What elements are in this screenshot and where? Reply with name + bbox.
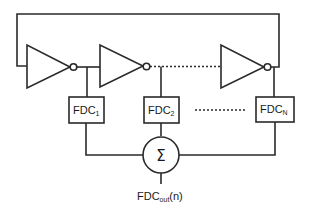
sum-wire-n: [179, 122, 275, 155]
inverter-n: [221, 45, 271, 88]
inverter-bubble-icon: [264, 64, 271, 71]
inverter-1: [27, 45, 77, 88]
sum-wire-1: [86, 123, 143, 155]
fdc-block-n: FDCN: [256, 97, 294, 122]
inverter-bubble-icon: [70, 64, 77, 71]
fdc-block-2: FDC2: [144, 97, 179, 123]
sigma-icon: Σ: [156, 147, 165, 165]
inverter-bubble-icon: [143, 63, 150, 70]
output-label: FDCout(n): [137, 190, 183, 203]
inverter-2: [100, 45, 150, 87]
fdc-block-1: FDC1: [69, 97, 104, 123]
summer: Σ: [143, 137, 179, 173]
ring-oscillator-fdc-diagram: FDC1 FDC2 FDCN Σ FDCout(n): [0, 0, 311, 214]
